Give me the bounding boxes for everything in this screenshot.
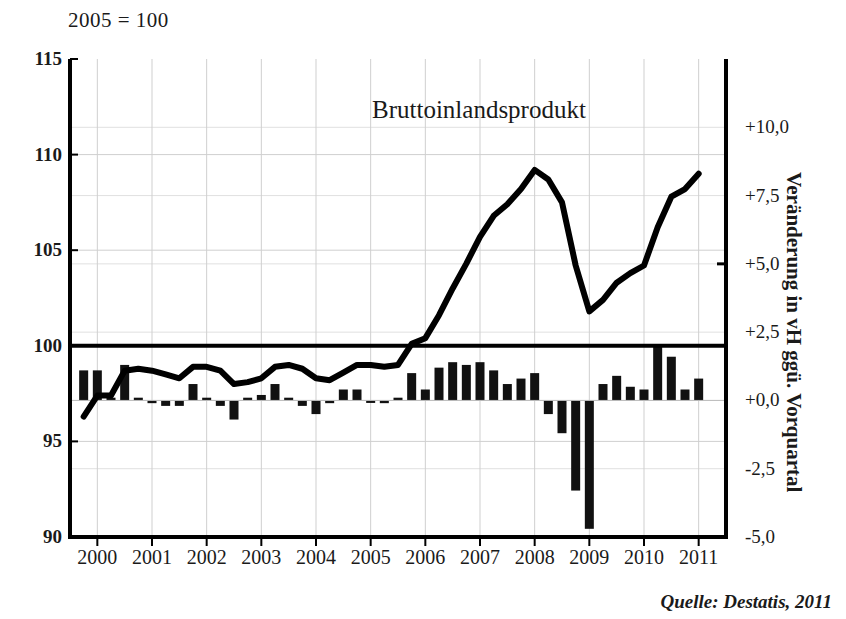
y-axis-left-tick-label: 105	[12, 239, 62, 261]
bar	[653, 346, 662, 401]
y-axis-left-tick-label: 95	[12, 430, 62, 452]
bar	[462, 365, 471, 401]
y-axis-left-tick-label: 100	[12, 335, 62, 357]
bar	[640, 390, 649, 401]
bar	[435, 368, 444, 401]
bar	[79, 370, 88, 400]
x-axis-tick-label: 2008	[515, 546, 555, 569]
bar	[161, 400, 170, 405]
y-axis-right-tick-label: +7,5	[745, 185, 779, 207]
y-axis-right-tick-label: +2,5	[745, 321, 779, 343]
series-label-gdp: Bruttoinlandsprodukt	[372, 96, 586, 124]
x-axis-tick-label: 2000	[77, 546, 117, 569]
bar	[448, 362, 457, 400]
bar	[489, 370, 498, 400]
bar	[626, 387, 635, 401]
bar	[599, 384, 608, 400]
bar	[216, 400, 225, 405]
bar	[407, 373, 416, 400]
bar	[530, 373, 539, 400]
right-axis-title: Veränderung in vH ggü. Vorquartal	[781, 172, 806, 592]
y-axis-left-tick-label: 90	[12, 526, 62, 548]
bar	[694, 379, 703, 401]
bar	[339, 390, 348, 401]
chart-figure: 2005 = 100 Bruttoinlandsprodukt Veränder…	[0, 0, 846, 619]
plot-background	[70, 59, 726, 537]
x-axis-tick-label: 2011	[679, 546, 718, 569]
bar	[585, 400, 594, 528]
x-axis-tick-label: 2007	[460, 546, 500, 569]
bar	[612, 376, 621, 401]
x-axis-tick-label: 2006	[405, 546, 445, 569]
bar	[175, 400, 184, 405]
bar	[353, 390, 362, 401]
y-axis-right-tick-label: -5,0	[745, 526, 775, 548]
x-axis-tick-label: 2010	[624, 546, 664, 569]
y-axis-right-tick-label: +5,0	[745, 253, 779, 275]
bar	[517, 379, 526, 401]
bar	[298, 400, 307, 405]
y-axis-right-tick-label: +0,0	[745, 389, 779, 411]
bar	[503, 384, 512, 400]
x-axis-tick-label: 2001	[132, 546, 172, 569]
bar	[230, 400, 239, 419]
x-axis-tick-label: 2002	[187, 546, 227, 569]
x-axis-tick-label: 2003	[241, 546, 281, 569]
bar	[421, 390, 430, 401]
bar	[667, 357, 676, 401]
bar	[189, 384, 198, 400]
y-axis-left-tick-label: 115	[12, 48, 62, 70]
bar	[681, 390, 690, 401]
source-note: Quelle: Destatis, 2011	[660, 591, 832, 613]
x-axis-tick-label: 2009	[569, 546, 609, 569]
chart-plot-area	[0, 0, 846, 619]
bar	[558, 400, 567, 433]
bar	[312, 400, 321, 414]
bar	[271, 384, 280, 400]
bar	[544, 400, 553, 414]
x-axis-tick-label: 2005	[351, 546, 391, 569]
bar	[571, 400, 580, 490]
y-axis-right-tick-label: +10,0	[745, 116, 789, 138]
x-axis-tick-label: 2004	[296, 546, 336, 569]
y-axis-right-tick-label: -2,5	[745, 458, 775, 480]
y-axis-left-tick-label: 110	[12, 144, 62, 166]
bar	[257, 395, 266, 400]
bar	[476, 362, 485, 400]
